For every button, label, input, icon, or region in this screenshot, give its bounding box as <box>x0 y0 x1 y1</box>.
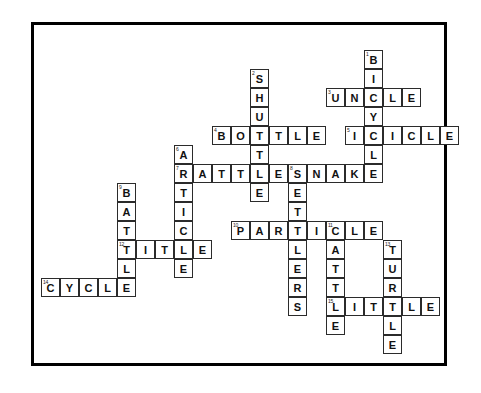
crossword-cell[interactable]: I <box>345 297 364 316</box>
crossword-cell[interactable]: C <box>79 278 98 297</box>
crossword-cell[interactable]: T <box>174 183 193 202</box>
crossword-cell[interactable]: T <box>383 297 402 316</box>
crossword-cell[interactable]: T <box>250 145 269 164</box>
crossword-cell[interactable]: L <box>364 145 383 164</box>
crossword-cell[interactable]: I <box>174 202 193 221</box>
crossword-cell[interactable]: E <box>364 221 383 240</box>
crossword-cell[interactable]: R <box>288 278 307 297</box>
crossword-cell[interactable]: I <box>136 240 155 259</box>
crossword-cell[interactable]: E <box>117 278 136 297</box>
cell-letter: E <box>327 317 344 334</box>
cell-letter: I <box>137 241 154 258</box>
crossword-cell[interactable]: C <box>402 126 421 145</box>
crossword-cell[interactable]: L <box>402 297 421 316</box>
crossword-cell[interactable]: A <box>250 221 269 240</box>
cell-letter: I <box>308 222 325 239</box>
crossword-cell[interactable]: E <box>288 259 307 278</box>
crossword-cell[interactable]: R <box>383 278 402 297</box>
crossword-cell[interactable]: H <box>250 88 269 107</box>
cell-letter: L <box>346 222 363 239</box>
crossword-cell[interactable]: 7R <box>174 164 193 183</box>
crossword-cell[interactable]: E <box>269 164 288 183</box>
crossword-cell[interactable]: 13T <box>383 240 402 259</box>
crossword-cell[interactable]: 5I <box>345 126 364 145</box>
crossword-cell[interactable]: I <box>307 221 326 240</box>
crossword-cell[interactable]: K <box>345 164 364 183</box>
crossword-cell[interactable]: Y <box>60 278 79 297</box>
cell-letter: E <box>270 165 287 182</box>
crossword-cell[interactable]: I <box>364 69 383 88</box>
crossword-cell[interactable]: 6A <box>174 145 193 164</box>
crossword-cell[interactable]: 2S <box>250 69 269 88</box>
crossword-cell[interactable]: A <box>117 202 136 221</box>
crossword-cell[interactable]: L <box>250 164 269 183</box>
cell-letter: E <box>118 279 135 296</box>
crossword-cell[interactable]: E <box>383 335 402 354</box>
crossword-cell[interactable]: T <box>250 126 269 145</box>
crossword-cell[interactable]: E <box>440 126 459 145</box>
crossword-cell[interactable]: E <box>174 259 193 278</box>
crossword-cell[interactable]: L <box>383 316 402 335</box>
crossword-cell[interactable]: 10P <box>231 221 250 240</box>
crossword-cell[interactable]: E <box>421 297 440 316</box>
crossword-cell[interactable]: 9B <box>117 183 136 202</box>
crossword-cell[interactable]: C <box>364 88 383 107</box>
cell-letter: R <box>289 279 306 296</box>
crossword-grid[interactable]: 1B2SIH3UNCLEUY4BOTTLE5ICICLE6ATL7RATTLE8… <box>34 25 444 363</box>
crossword-cell[interactable]: T <box>117 221 136 240</box>
crossword-cell[interactable]: E <box>193 240 212 259</box>
crossword-cell[interactable]: L <box>174 240 193 259</box>
crossword-cell[interactable]: T <box>364 297 383 316</box>
cell-letter: T <box>232 165 249 182</box>
crossword-cell[interactable]: 1B <box>364 50 383 69</box>
crossword-cell[interactable]: 8S <box>288 164 307 183</box>
crossword-cell[interactable]: T <box>269 126 288 145</box>
crossword-cell[interactable]: 11C <box>326 221 345 240</box>
cell-letter: E <box>422 298 439 315</box>
cell-letter: I <box>384 127 401 144</box>
crossword-cell[interactable]: U <box>250 107 269 126</box>
crossword-cell[interactable]: L <box>288 240 307 259</box>
crossword-cell[interactable]: S <box>288 297 307 316</box>
crossword-cell[interactable]: L <box>288 126 307 145</box>
crossword-cell[interactable]: L <box>383 88 402 107</box>
cell-letter: E <box>384 336 401 353</box>
crossword-cell[interactable]: 14C <box>41 278 60 297</box>
crossword-cell[interactable]: C <box>364 126 383 145</box>
crossword-cell[interactable]: N <box>307 164 326 183</box>
crossword-cell[interactable]: T <box>326 259 345 278</box>
cell-letter: T <box>118 241 135 258</box>
crossword-cell[interactable]: A <box>193 164 212 183</box>
crossword-cell[interactable]: L <box>345 221 364 240</box>
crossword-cell[interactable]: T <box>288 202 307 221</box>
crossword-cell[interactable]: E <box>250 183 269 202</box>
crossword-cell[interactable]: T <box>326 278 345 297</box>
crossword-cell[interactable]: A <box>326 164 345 183</box>
crossword-cell[interactable]: E <box>402 88 421 107</box>
crossword-cell[interactable]: T <box>288 221 307 240</box>
crossword-cell[interactable]: R <box>269 221 288 240</box>
crossword-cell[interactable]: 3U <box>326 88 345 107</box>
crossword-cell[interactable]: 15L <box>326 297 345 316</box>
crossword-cell[interactable]: T <box>231 164 250 183</box>
crossword-cell[interactable]: 4B <box>212 126 231 145</box>
crossword-cell[interactable]: L <box>117 259 136 278</box>
cell-letter: E <box>289 184 306 201</box>
crossword-cell[interactable]: C <box>174 221 193 240</box>
crossword-cell[interactable]: T <box>155 240 174 259</box>
crossword-cell[interactable]: I <box>383 126 402 145</box>
crossword-cell[interactable]: Y <box>364 107 383 126</box>
crossword-cell[interactable]: A <box>326 240 345 259</box>
crossword-cell[interactable]: L <box>98 278 117 297</box>
crossword-cell[interactable]: O <box>231 126 250 145</box>
crossword-cell[interactable]: 12T <box>117 240 136 259</box>
crossword-cell[interactable]: E <box>288 183 307 202</box>
cell-letter: H <box>251 89 268 106</box>
crossword-cell[interactable]: U <box>383 259 402 278</box>
crossword-cell[interactable]: E <box>326 316 345 335</box>
crossword-cell[interactable]: E <box>307 126 326 145</box>
crossword-cell[interactable]: T <box>212 164 231 183</box>
crossword-cell[interactable]: L <box>421 126 440 145</box>
crossword-cell[interactable]: N <box>345 88 364 107</box>
crossword-cell[interactable]: E <box>364 164 383 183</box>
